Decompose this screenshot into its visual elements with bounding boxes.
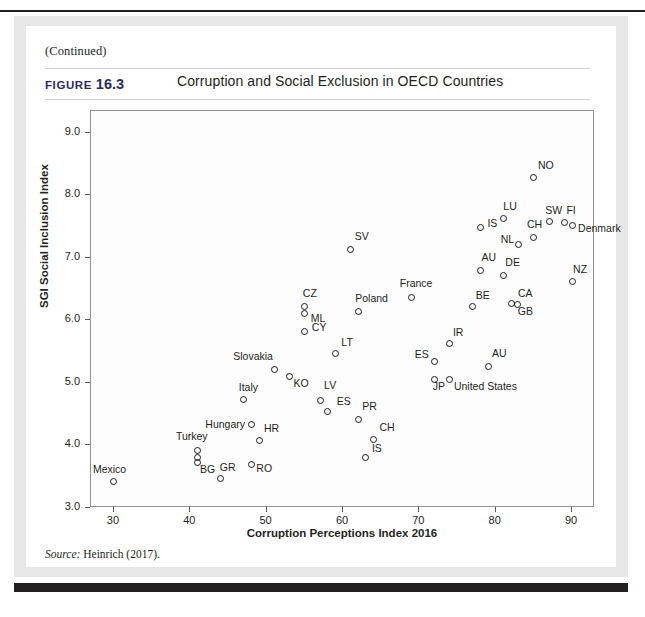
x-tick-mark — [495, 507, 496, 512]
data-point — [194, 447, 201, 454]
data-point — [301, 328, 308, 335]
data-point — [561, 219, 568, 226]
data-point-label: IS — [487, 218, 497, 229]
data-point-label: IS — [372, 443, 382, 454]
data-point-label: BE — [476, 290, 490, 301]
data-point-label: GR — [220, 462, 236, 473]
y-tick-mark — [85, 319, 90, 320]
data-point — [569, 278, 576, 285]
data-point — [469, 303, 476, 310]
figure-label: FIGURE 16.3 — [45, 76, 124, 92]
data-point — [446, 376, 453, 383]
data-point — [362, 454, 369, 461]
x-tick-mark — [189, 507, 190, 512]
x-tick-mark — [418, 507, 419, 512]
data-point-label: HR — [264, 423, 279, 434]
x-tick-mark — [342, 507, 343, 512]
data-point-label: France — [400, 278, 433, 289]
data-point — [271, 366, 278, 373]
x-tick-label: 60 — [336, 514, 348, 526]
y-tick-label: 5.0 — [50, 375, 80, 387]
data-point — [500, 215, 507, 222]
x-tick-mark — [266, 507, 267, 512]
data-point — [431, 358, 438, 365]
y-tick-mark — [85, 444, 90, 445]
data-point-label: CZ — [303, 288, 317, 299]
x-tick-label: 80 — [489, 514, 501, 526]
data-point-label: CA — [518, 288, 533, 299]
data-point-label: CH — [380, 422, 395, 433]
x-axis-title: Corruption Perceptions Index 2016 — [90, 527, 594, 539]
source-text: Heinrich (2017). — [83, 548, 160, 560]
figure-title: Corruption and Social Exclusion in OECD … — [177, 73, 503, 89]
x-tick-mark — [113, 507, 114, 512]
data-point — [485, 363, 492, 370]
y-tick-mark — [85, 194, 90, 195]
data-point-label: RO — [256, 463, 272, 474]
page-top-rule — [0, 10, 645, 12]
figure-rule-bottom — [45, 99, 590, 100]
y-axis-title: SGI Social Inclusion Index — [38, 164, 50, 308]
data-point-label: United States — [454, 381, 517, 392]
data-point-label: LV — [324, 380, 336, 391]
data-point — [248, 421, 255, 428]
data-point — [569, 222, 576, 229]
figure-label-word: FIGURE — [45, 79, 92, 91]
x-tick-label: 30 — [107, 514, 119, 526]
data-point — [355, 308, 362, 315]
data-point-label: JP — [433, 381, 445, 392]
data-point-label: ES — [415, 349, 429, 360]
data-point-label: Hungary — [205, 419, 245, 430]
data-point — [301, 310, 308, 317]
data-point — [110, 478, 117, 485]
scatter-plot-area: MexicoTurkeyBGGRROHRHungaryItalySlovakia… — [90, 110, 594, 507]
x-tick-mark — [571, 507, 572, 512]
y-tick-mark — [85, 507, 90, 508]
y-tick-label: 7.0 — [50, 250, 80, 262]
data-point-label: GB — [518, 306, 533, 317]
data-point-label: KO — [294, 378, 309, 389]
data-point — [515, 241, 522, 248]
data-point — [317, 397, 324, 404]
data-point-label: BG — [200, 464, 215, 475]
data-point — [370, 436, 377, 443]
figure-number: 16.3 — [96, 76, 124, 92]
data-point-label: Denmark — [578, 223, 621, 234]
plot-points-layer: MexicoTurkeyBGGRROHRHungaryItalySlovakia… — [91, 111, 595, 508]
data-point — [477, 224, 484, 231]
data-point-label: PR — [362, 401, 377, 412]
page-footer-bar — [14, 583, 628, 592]
data-point — [446, 340, 453, 347]
data-point — [530, 174, 537, 181]
data-point-label: SW — [545, 205, 562, 216]
data-point — [332, 350, 339, 357]
data-point — [301, 303, 308, 310]
data-point-label: LU — [503, 201, 516, 212]
figure-rule-top — [45, 68, 590, 69]
data-point — [248, 461, 255, 468]
data-point-label: CH — [527, 219, 542, 230]
data-point-label: SV — [355, 231, 369, 242]
y-tick-label: 3.0 — [50, 500, 80, 512]
data-point-label: CY — [312, 322, 327, 333]
x-tick-label: 90 — [565, 514, 577, 526]
y-tick-mark — [85, 257, 90, 258]
data-point-label: AU — [481, 252, 496, 263]
data-point-label: ES — [337, 396, 351, 407]
data-point-label: NZ — [573, 264, 587, 275]
y-tick-label: 4.0 — [50, 437, 80, 449]
source-note: Source: Heinrich (2017). — [45, 548, 160, 560]
data-point — [256, 437, 263, 444]
data-point — [324, 408, 331, 415]
x-tick-label: 70 — [412, 514, 424, 526]
data-point-label: Turkey — [176, 431, 208, 442]
data-point — [217, 475, 224, 482]
data-point — [530, 234, 537, 241]
data-point — [240, 396, 247, 403]
data-point-label: AU — [492, 348, 507, 359]
data-point-label: Mexico — [93, 464, 126, 475]
continued-note: (Continued) — [45, 44, 107, 59]
data-point-label: Poland — [355, 293, 388, 304]
data-point — [477, 267, 484, 274]
data-point-label: FI — [566, 205, 575, 216]
